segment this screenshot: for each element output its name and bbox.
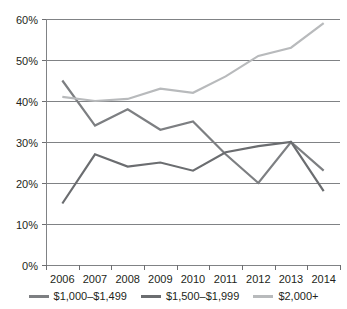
- legend-item-2[interactable]: $1,500–$1,999: [141, 291, 239, 302]
- y-tick-label: 50%: [16, 55, 38, 67]
- series-line-1: [62, 81, 323, 184]
- y-tick-label: 60%: [16, 14, 38, 26]
- y-tick-label: 10%: [16, 219, 38, 231]
- chart-canvas: 0%10%20%30%40%50%60% 2006200720082009201…: [0, 0, 347, 283]
- x-tick-label: 2011: [214, 273, 238, 283]
- y-tick-label: 20%: [16, 178, 38, 190]
- x-tick-label: 2007: [83, 273, 107, 283]
- y-tick-label: 40%: [16, 96, 38, 108]
- legend-swatch-icon: [29, 295, 49, 298]
- legend-swatch-icon: [253, 295, 273, 298]
- series-lines-group: [62, 23, 323, 203]
- y-tick-label: 0%: [22, 260, 38, 272]
- x-tick-label: 2010: [181, 273, 205, 283]
- y-axis-tick-labels: 0%10%20%30%40%50%60%: [16, 14, 38, 272]
- x-tick-label: 2006: [50, 273, 74, 283]
- series-line-3: [62, 23, 323, 101]
- gridlines-group: [46, 20, 340, 266]
- x-tick-label: 2013: [279, 273, 303, 283]
- legend-item-1[interactable]: $1,000–$1,499: [29, 291, 127, 302]
- legend-label: $1,000–$1,499: [54, 291, 127, 302]
- legend-label: $2,000+: [278, 291, 318, 302]
- x-tick-label: 2008: [115, 273, 139, 283]
- x-tick-label: 2014: [311, 273, 335, 283]
- legend-swatch-icon: [141, 295, 161, 298]
- plot-area: 0%10%20%30%40%50%60% 2006200720082009201…: [0, 0, 347, 283]
- legend-label: $1,500–$1,999: [166, 291, 239, 302]
- x-tick-label: 2009: [148, 273, 172, 283]
- line-chart: 0%10%20%30%40%50%60% 2006200720082009201…: [0, 0, 347, 309]
- legend-item-3[interactable]: $2,000+: [253, 291, 318, 302]
- x-axis-tick-labels: 200620072008200920102011201220132014: [50, 273, 336, 283]
- chart-legend: $1,000–$1,499$1,500–$1,999$2,000+: [0, 283, 347, 309]
- y-tick-label: 30%: [16, 137, 38, 149]
- x-tick-label: 2012: [246, 273, 270, 283]
- y-tickmarks-group: [42, 20, 46, 266]
